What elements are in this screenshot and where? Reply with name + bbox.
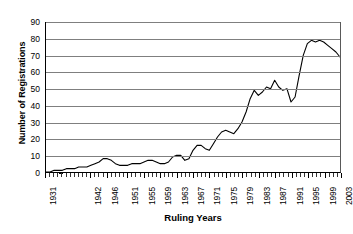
x-tick-mark	[74, 173, 75, 177]
x-axis-tick-labels: 1931194219461951195519591963196719711975…	[45, 178, 341, 208]
x-tick-mark	[135, 173, 136, 177]
x-tick-mark	[94, 173, 95, 177]
y-tick-label: 80	[18, 35, 40, 43]
x-tick-mark	[329, 173, 330, 177]
x-tick-label: 1959	[164, 187, 173, 205]
x-tick-mark	[86, 173, 87, 177]
x-tick-mark	[66, 173, 67, 177]
x-tick-mark	[53, 173, 54, 177]
x-tick-mark	[131, 173, 132, 177]
x-tick-mark	[181, 173, 182, 177]
x-tick-mark	[70, 173, 71, 177]
x-tick-mark	[115, 173, 116, 177]
registrations-line-chart: Number of Registrations 9080706050403020…	[0, 0, 353, 234]
x-tick-mark	[283, 173, 284, 177]
x-tick-label: 1979	[246, 187, 255, 205]
x-tick-mark	[304, 173, 305, 177]
gridline	[46, 39, 340, 40]
x-tick-mark	[251, 173, 252, 177]
x-axis-title: Ruling Years	[45, 212, 341, 223]
gridline	[46, 56, 340, 57]
x-tick-mark	[316, 173, 317, 177]
x-tick-mark	[164, 173, 165, 177]
y-tick-label: 10	[18, 152, 40, 160]
x-tick-label: 1946	[111, 187, 120, 205]
x-tick-mark	[255, 173, 256, 177]
x-tick-mark	[238, 173, 239, 177]
x-tick-mark	[61, 173, 62, 177]
x-tick-mark	[189, 173, 190, 177]
x-tick-mark	[185, 173, 186, 177]
gridline	[46, 106, 340, 107]
gridline	[46, 156, 340, 157]
x-tick-mark	[234, 173, 235, 177]
gridline-top	[46, 22, 340, 23]
plot-area	[45, 22, 341, 173]
x-tick-mark	[78, 173, 79, 177]
x-tick-mark	[214, 173, 215, 177]
y-axis-tick-labels: 9080706050403020100	[18, 22, 40, 173]
gridline	[46, 89, 340, 90]
x-tick-mark	[312, 173, 313, 177]
x-tick-mark	[57, 173, 58, 177]
x-tick-mark	[320, 173, 321, 177]
data-line-svg	[46, 22, 340, 172]
x-tick-label: 1951	[131, 187, 140, 205]
x-tick-mark	[300, 173, 301, 177]
y-tick-label: 20	[18, 135, 40, 143]
x-tick-mark	[201, 173, 202, 177]
y-tick-label: 0	[18, 169, 40, 177]
x-tick-label: 1971	[213, 187, 222, 205]
x-tick-mark	[119, 173, 120, 177]
x-tick-mark	[296, 173, 297, 177]
x-tick-mark	[172, 173, 173, 177]
x-tick-label: 1983	[263, 187, 272, 205]
y-tick-label: 60	[18, 68, 40, 76]
x-tick-mark	[49, 173, 50, 177]
x-tick-label: 1963	[181, 187, 190, 205]
gridline	[46, 123, 340, 124]
x-tick-mark	[123, 173, 124, 177]
x-tick-mark	[148, 173, 149, 177]
x-tick-mark	[230, 173, 231, 177]
x-tick-mark	[197, 173, 198, 177]
x-tick-mark	[103, 173, 104, 177]
x-tick-label: 2003	[345, 187, 353, 205]
x-tick-mark	[246, 173, 247, 177]
x-tick-mark	[205, 173, 206, 177]
x-tick-mark	[288, 173, 289, 177]
x-tick-label: 1995	[312, 187, 321, 205]
x-tick-mark	[271, 173, 272, 177]
x-tick-mark	[222, 173, 223, 177]
x-tick-mark	[267, 173, 268, 177]
x-tick-label: 1942	[94, 187, 103, 205]
x-tick-mark	[140, 173, 141, 177]
x-tick-mark	[152, 173, 153, 177]
y-tick-label: 90	[18, 18, 40, 26]
x-tick-label: 1987	[279, 187, 288, 205]
gridline	[46, 139, 340, 140]
y-tick-label: 50	[18, 85, 40, 93]
x-tick-label: 1931	[49, 187, 58, 205]
x-tick-mark	[337, 173, 338, 177]
x-tick-mark	[218, 173, 219, 177]
x-tick-mark	[263, 173, 264, 177]
x-tick-label: 1991	[296, 187, 305, 205]
x-tick-label: 1955	[148, 187, 157, 205]
y-tick-label: 40	[18, 102, 40, 110]
x-tick-mark	[111, 173, 112, 177]
x-tick-mark	[279, 173, 280, 177]
x-tick-label: 1999	[329, 187, 338, 205]
y-tick-label: 30	[18, 119, 40, 127]
x-tick-mark	[333, 173, 334, 177]
x-tick-mark	[341, 173, 342, 178]
x-tick-mark	[156, 173, 157, 177]
x-tick-label: 1967	[197, 187, 206, 205]
x-tick-mark	[168, 173, 169, 177]
x-tick-label: 1975	[230, 187, 239, 205]
x-tick-mark	[98, 173, 99, 177]
x-tick-mark	[82, 173, 83, 177]
gridline	[46, 72, 340, 73]
y-tick-label: 70	[18, 52, 40, 60]
